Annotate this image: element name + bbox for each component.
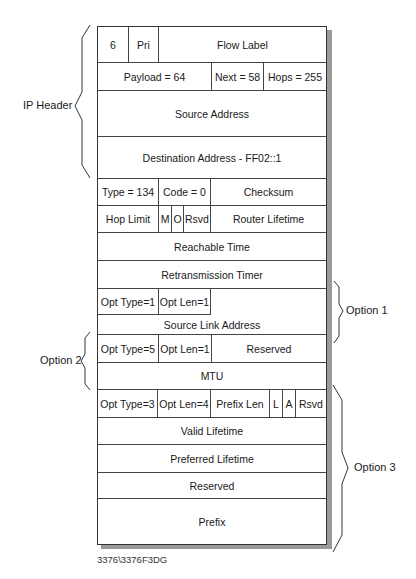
label-option1: Option 1 xyxy=(346,304,388,316)
option3-brace-icon xyxy=(333,385,348,552)
label-option2: Option 2 xyxy=(40,354,82,366)
figure-id: 3376\3376F3DG xyxy=(97,554,167,565)
option2-brace-icon xyxy=(81,332,90,390)
ip-header-brace-icon xyxy=(75,25,90,178)
group-braces xyxy=(0,0,416,579)
label-option3: Option 3 xyxy=(354,461,396,473)
option1-brace-icon xyxy=(334,281,343,343)
label-ip-header: IP Header xyxy=(23,99,72,111)
